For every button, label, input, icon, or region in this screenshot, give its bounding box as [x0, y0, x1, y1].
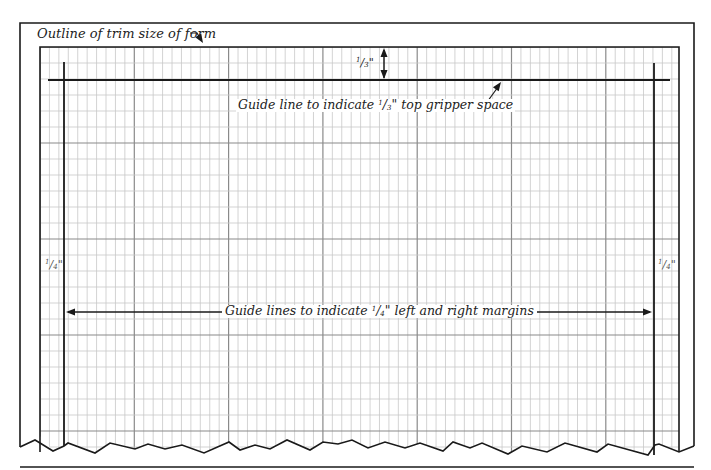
trim-outline-label-text: Outline of trim size of form [37, 26, 216, 41]
torn-bottom-edge [20, 440, 694, 455]
print-form-layout-diagram: Outline of trim size of form 1/3" Guide … [0, 0, 711, 470]
trim-outline-label: Outline of trim size of form [37, 27, 216, 40]
arrow-right-icon [643, 309, 652, 316]
gripper-space-measure: 1/3" [356, 57, 374, 69]
arrow-up-icon [381, 48, 388, 57]
arrow-down-icon [381, 70, 388, 79]
right-margin-measure: 1/4" [658, 259, 676, 271]
arrow-pointer-icon [493, 82, 501, 91]
margin-guides-label: Guide lines to indicate 1/4" left and ri… [222, 305, 537, 318]
gripper-guide-label: Guide line to indicate 1/3" top gripper … [236, 99, 515, 112]
guide-lines [20, 23, 694, 467]
grid-diagram-canvas [0, 0, 711, 470]
arrow-left-icon [66, 309, 75, 316]
left-margin-measure: 1/4" [45, 259, 63, 271]
